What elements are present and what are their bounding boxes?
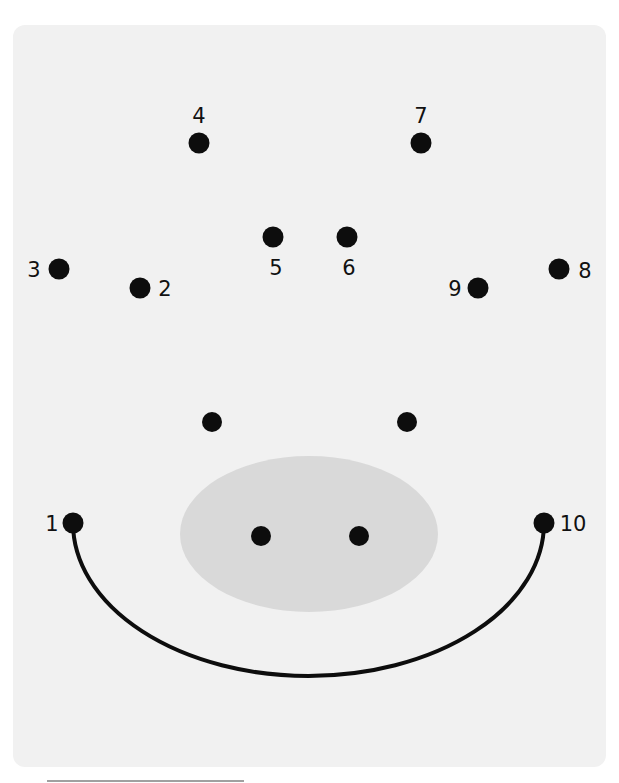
dot-number-label: 2 [158, 277, 171, 301]
eyes-group [202, 412, 417, 432]
dot-number-label: 5 [269, 256, 282, 280]
numbered-dot-6: 6 [337, 227, 358, 281]
pig-drawing: 12345678910 [0, 0, 619, 783]
footer-divider [47, 780, 244, 782]
dot-marker [263, 227, 284, 248]
numbered-dot-8: 8 [549, 259, 592, 284]
dot-number-label: 8 [578, 259, 591, 283]
numbered-dot-3: 3 [27, 258, 69, 282]
dot-marker [189, 133, 210, 154]
dot-marker [534, 513, 555, 534]
dot-number-label: 3 [27, 258, 40, 282]
dot-number-label: 6 [342, 256, 355, 280]
numbered-dot-4: 4 [189, 104, 210, 154]
dot-number-label: 4 [192, 104, 205, 128]
nostril-left [251, 526, 271, 546]
dot-marker [337, 227, 358, 248]
dot-number-label: 9 [448, 277, 461, 301]
dot-marker [468, 278, 489, 299]
dot-marker [411, 133, 432, 154]
eye-right [397, 412, 417, 432]
nostril-right [349, 526, 369, 546]
numbered-dot-2: 2 [130, 277, 172, 301]
eye-left [202, 412, 222, 432]
dot-marker [549, 259, 570, 280]
numbered-dot-9: 9 [448, 277, 488, 301]
dot-number-label: 10 [560, 512, 587, 536]
dot-marker [49, 259, 70, 280]
dot-marker [63, 513, 84, 534]
numbered-dot-1: 1 [45, 512, 83, 536]
dot-marker [130, 278, 151, 299]
dot-number-label: 7 [414, 104, 427, 128]
numbered-dot-5: 5 [263, 227, 284, 281]
numbered-dot-7: 7 [411, 104, 432, 154]
snout-shape [180, 456, 438, 612]
numbered-dot-10: 10 [534, 512, 587, 536]
dot-number-label: 1 [45, 512, 58, 536]
